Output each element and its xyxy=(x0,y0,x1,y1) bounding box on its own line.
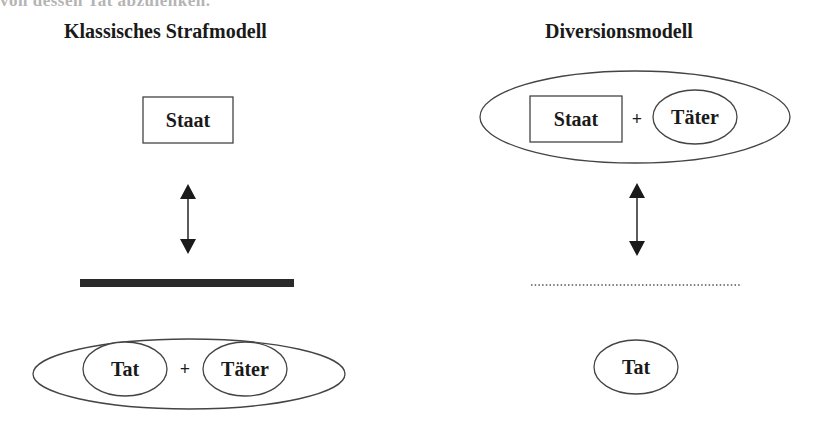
diversion-model: Staat + Täter Tat xyxy=(480,71,790,394)
offender-label: Täter xyxy=(671,106,719,128)
deed-label: Tat xyxy=(622,356,651,378)
state-label: Staat xyxy=(554,108,599,130)
offender-ellipse: Täter xyxy=(203,342,287,396)
double-arrow-icon xyxy=(629,183,645,256)
deed-label: Tat xyxy=(111,358,140,380)
deed-offender-group: Tat + Täter xyxy=(33,339,345,409)
state-box: Staat xyxy=(530,96,622,142)
solid-separator-bar xyxy=(80,279,294,287)
state-offender-group: Staat + Täter xyxy=(480,71,790,163)
plus-sign: + xyxy=(632,109,642,129)
state-box: Staat xyxy=(143,97,233,143)
offender-label: Täter xyxy=(221,358,269,380)
deed-ellipse: Tat xyxy=(83,342,167,396)
plus-sign: + xyxy=(180,359,190,379)
double-arrow-icon xyxy=(180,184,196,254)
offender-ellipse: Täter xyxy=(653,90,737,144)
classic-model: Staat Tat + Täter xyxy=(33,97,345,409)
deed-ellipse: Tat xyxy=(594,340,678,394)
state-label: Staat xyxy=(166,109,211,131)
model-comparison-diagram: Staat Tat + Täter xyxy=(0,0,815,433)
